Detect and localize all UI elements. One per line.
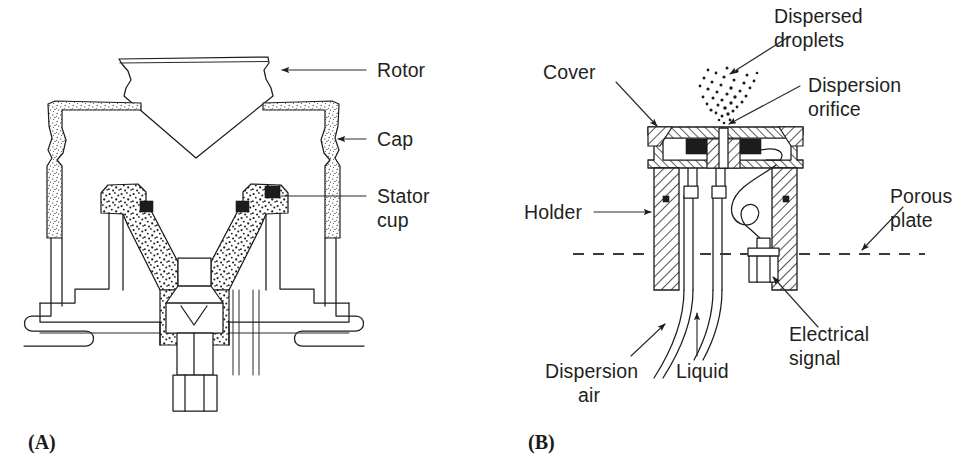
label-cover: Cover	[543, 61, 596, 83]
label-porous-plate-line1: Porous	[890, 185, 953, 207]
label-liquid: Liquid	[676, 360, 729, 382]
stator-seal-shoulder-right	[265, 186, 280, 198]
stator-seal-right	[236, 201, 249, 212]
label-dispersion-orifice-line2: orifice	[808, 98, 861, 120]
label-holder: Holder	[524, 201, 582, 223]
label-dispersion-orifice-line1: Dispersion	[808, 74, 901, 96]
label-dispersed-droplets-line2: droplets	[774, 29, 844, 51]
label-stator-cup-line2: cup	[377, 209, 409, 231]
label-rotor: Rotor	[377, 59, 426, 81]
label-electrical-signal-line2: signal	[789, 347, 841, 369]
label-stator-cup-line1: Stator	[377, 185, 430, 207]
label-dispersion-air-line1: Dispersion	[545, 360, 638, 382]
stator-seal-left	[140, 201, 153, 212]
technical-diagram-figure: Rotor Cap Stator cup (A)	[0, 0, 973, 475]
label-cap: Cap	[377, 128, 413, 150]
label-porous-plate-line2: plate	[890, 209, 933, 231]
figure-root: Rotor Cap Stator cup (A)	[0, 0, 973, 475]
holder-left-wall	[654, 168, 679, 290]
cover-plate	[648, 127, 803, 168]
caption-panel-a: (A)	[28, 431, 56, 454]
label-dispersion-air-line2: air	[578, 384, 600, 406]
label-dispersed-droplets-line1: Dispersed	[774, 5, 863, 27]
seal-pocket-left	[686, 139, 707, 154]
label-electrical-signal-line1: Electrical	[789, 323, 869, 345]
seal-pocket-right	[740, 139, 761, 154]
caption-panel-b: (B)	[528, 431, 555, 454]
orifice-bore	[719, 128, 728, 168]
